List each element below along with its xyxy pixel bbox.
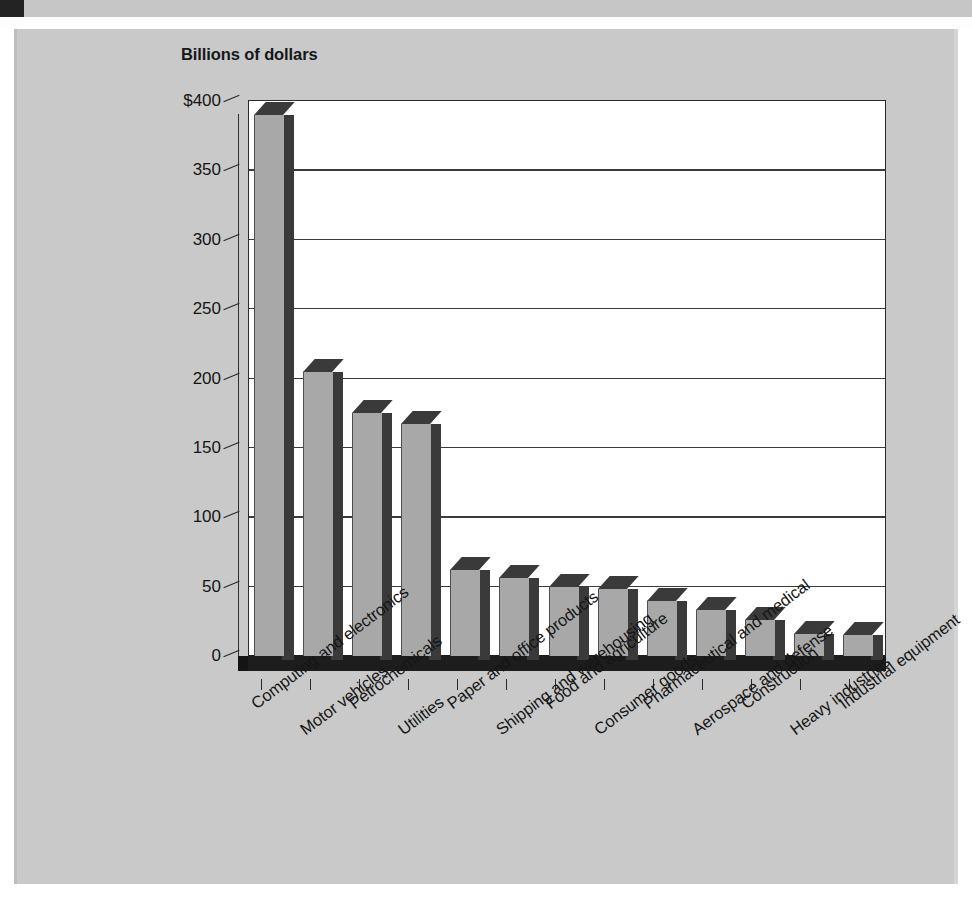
x-axis-category-label: Industrial equipment bbox=[836, 610, 964, 713]
x-axis-category-label: Utilities bbox=[394, 693, 447, 739]
x-axis-category-label: Computing and electronics bbox=[247, 583, 411, 713]
x-axis-labels: Computing and electronicsMotor vehiclesP… bbox=[0, 0, 972, 908]
x-axis-category-label: Pharmaceutical and medical bbox=[640, 575, 814, 713]
